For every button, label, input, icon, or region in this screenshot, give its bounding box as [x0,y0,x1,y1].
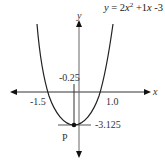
left-root-value: -1.5 [30,97,46,107]
vertex-x-value: -0.25 [59,73,80,83]
x-axis-left-arrow [10,89,17,95]
y-axis-down-arrow [76,151,82,158]
y-axis-label: y [77,11,81,21]
vertex-point-label: P [62,133,68,143]
vertex-point [72,123,77,128]
right-root-value: 1.0 [106,97,119,107]
equation-label: y = 2x2 +1x -3 [104,2,163,14]
x-axis-label: x [153,87,157,97]
y-axis-up-arrow [76,20,82,27]
x-axis-right-arrow [144,89,151,95]
parabola-graph [0,0,165,162]
vertex-y-value: -3.125 [95,120,121,130]
